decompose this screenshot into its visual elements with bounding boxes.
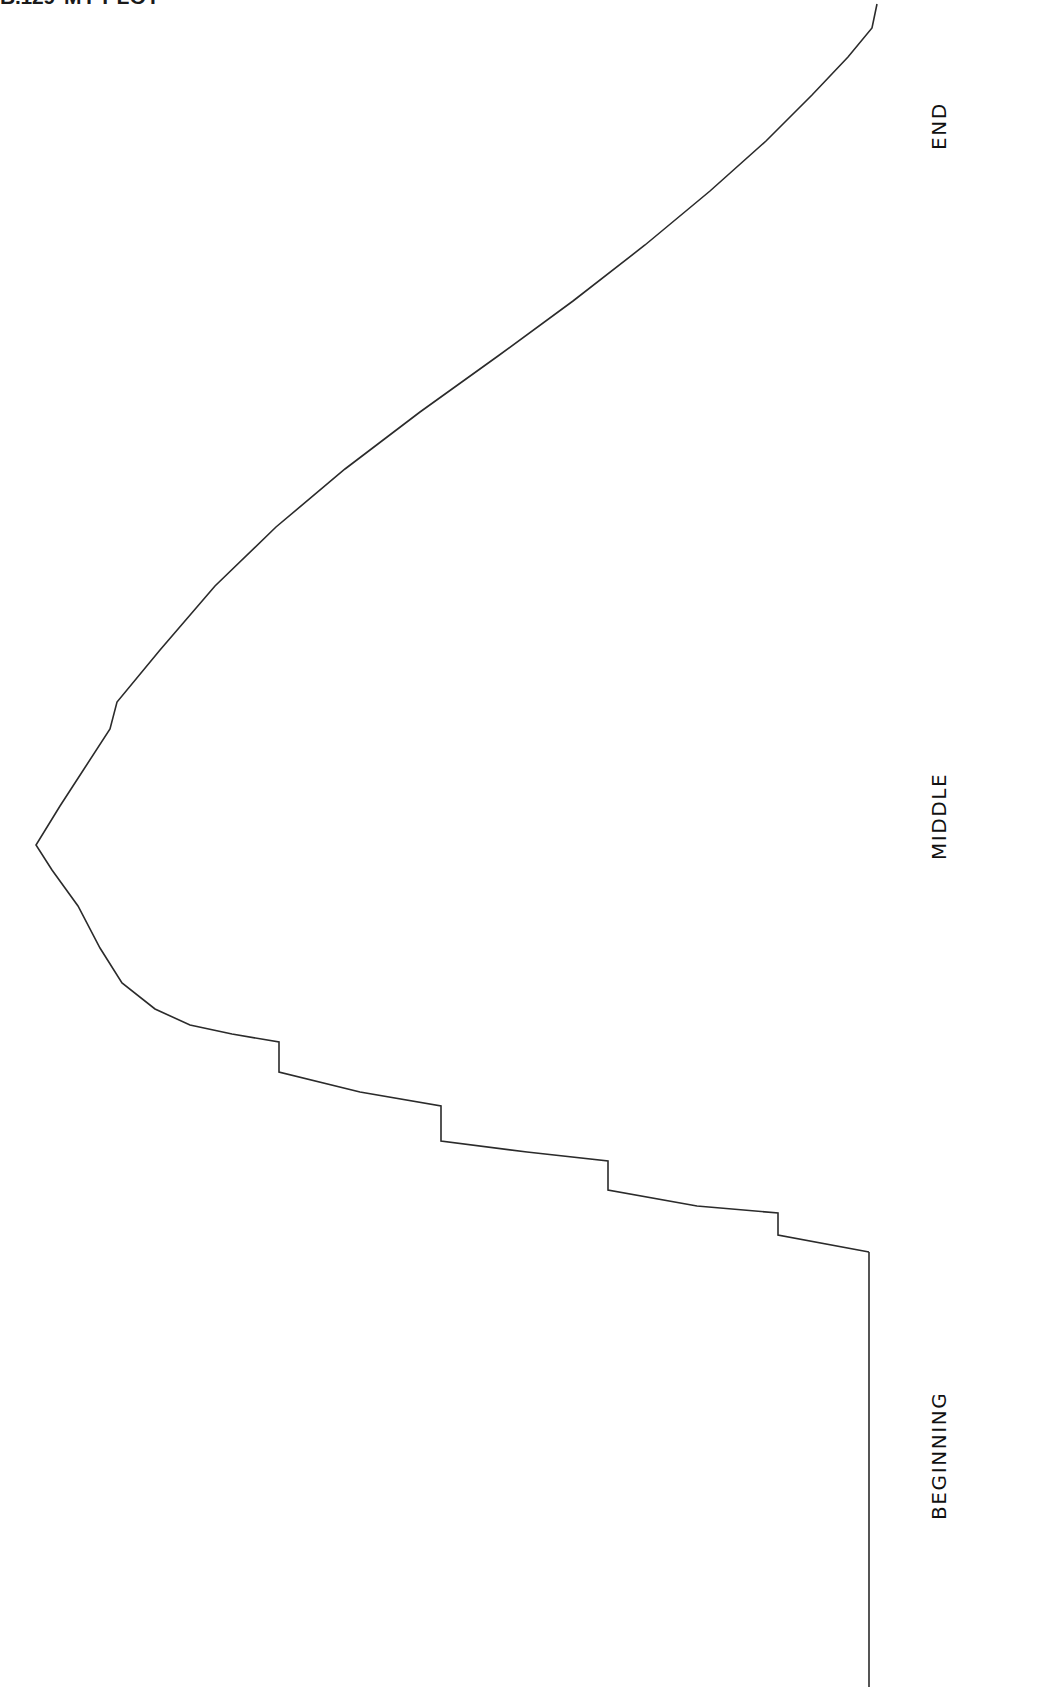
axis-label-end: END — [927, 102, 951, 150]
tension-curve-chart — [0, 0, 1041, 1687]
tension-curve-line — [36, 4, 877, 1252]
plot-canvas — [0, 0, 1041, 1687]
axis-label-middle: MIDDLE — [927, 773, 951, 860]
axis-label-beginning: BEGINNING — [927, 1392, 951, 1520]
